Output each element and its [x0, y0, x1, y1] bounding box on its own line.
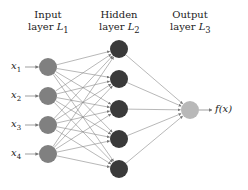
edge: [57, 141, 110, 152]
input-label-x3: x3: [11, 118, 21, 132]
input-node: [39, 58, 57, 76]
input-node: [39, 116, 57, 134]
edge: [57, 156, 110, 167]
edge: [54, 86, 112, 148]
layer-label-output: Output layer L3: [170, 9, 210, 36]
layer-title: Hidden: [99, 9, 139, 21]
hidden-node: [110, 70, 128, 88]
layer-subtitle: layer L2: [99, 21, 139, 36]
layer-subtitle: layer L1: [28, 21, 68, 36]
layer-label-input: Input layer L1: [28, 9, 68, 36]
edge: [54, 56, 112, 118]
input-label-x4: x4: [11, 147, 21, 161]
edge: [127, 114, 181, 136]
edge: [126, 55, 183, 104]
input-node: [39, 145, 57, 163]
input-label-x2: x2: [11, 89, 21, 103]
output-label: f(x): [215, 103, 232, 114]
input-label-x1: x1: [11, 60, 21, 74]
layer-title: Output: [170, 9, 210, 21]
hidden-node: [110, 40, 128, 58]
hidden-node: [110, 130, 128, 148]
layer-label-hidden: Hidden layer L2: [99, 9, 139, 36]
hidden-node: [110, 160, 128, 178]
hidden-node: [110, 100, 128, 118]
edge: [54, 73, 112, 132]
edge: [57, 51, 110, 64]
edge: [56, 130, 111, 164]
edge: [56, 101, 111, 134]
layer-title: Input: [28, 9, 68, 21]
output-node: [181, 101, 199, 119]
edge: [126, 116, 183, 163]
edge: [128, 109, 181, 110]
layer-subtitle: layer L3: [170, 21, 210, 36]
input-node: [39, 87, 57, 105]
edge: [127, 83, 181, 107]
edge: [56, 114, 111, 149]
edge: [53, 57, 114, 147]
